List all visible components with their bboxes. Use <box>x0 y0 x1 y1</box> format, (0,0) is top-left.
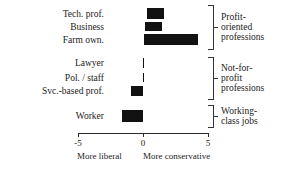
group-label-not-for-profit-line2: profit <box>221 73 242 84</box>
bar-lawyer <box>143 58 144 68</box>
bar-pol-staff <box>143 73 144 82</box>
x-axis-tick-label-plus5: 5 <box>206 138 211 148</box>
bracket-nub-profit-oriented <box>214 27 218 28</box>
group-label-working-class-line2: class jobs <box>221 116 258 127</box>
group-label-profit-oriented-line3: professions <box>221 32 264 43</box>
x-axis-tick-zero <box>143 133 144 137</box>
group-label-working-class-line1: Working- <box>221 106 257 117</box>
bar-business <box>145 22 162 31</box>
x-axis-tick-minus5 <box>78 133 79 137</box>
axis-caption-more-liberal: More liberal <box>77 151 122 161</box>
bracket-nub-not-for-profit <box>214 78 218 79</box>
group-label-profit-oriented-line2: oriented <box>221 22 252 33</box>
x-axis-tick-label-zero: 0 <box>141 138 146 148</box>
group-label-profit-oriented-line1: Profit- <box>221 12 246 23</box>
bar-tech-prof <box>147 8 164 19</box>
x-axis-tick-label-minus5: -5 <box>74 138 82 148</box>
axis-caption-more-conservative: More conservative <box>143 151 210 161</box>
x-axis-tick-plus5 <box>208 133 209 137</box>
bar-svc-based-prof <box>131 86 143 96</box>
chart-container: Tech. prof. Business Farm own. Lawyer Po… <box>0 0 285 170</box>
group-label-not-for-profit-line1: Not-for- <box>221 63 252 74</box>
bar-worker <box>122 110 143 122</box>
bracket-nub-working-class <box>214 116 218 117</box>
group-label-not-for-profit-line3: professions <box>221 83 264 94</box>
bar-farm-own <box>144 34 197 45</box>
